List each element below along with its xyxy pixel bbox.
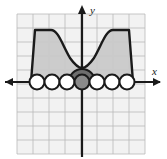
circle-marker — [105, 75, 120, 90]
x-axis-left-arrow — [5, 78, 13, 86]
graph-canvas: y x — [0, 0, 167, 159]
circle-marker — [90, 75, 105, 90]
circle-marker — [120, 75, 135, 90]
x-axis-label: x — [151, 65, 157, 77]
circle-marker-highlighted — [75, 75, 90, 90]
coordinate-plane-figure: y x — [0, 0, 167, 159]
circle-marker — [60, 75, 75, 90]
x-axis-right-arrow — [153, 78, 161, 86]
circle-marker — [30, 75, 45, 90]
y-axis-up-arrow — [78, 5, 86, 14]
circle-marker — [45, 75, 60, 90]
y-axis-label: y — [89, 4, 95, 16]
